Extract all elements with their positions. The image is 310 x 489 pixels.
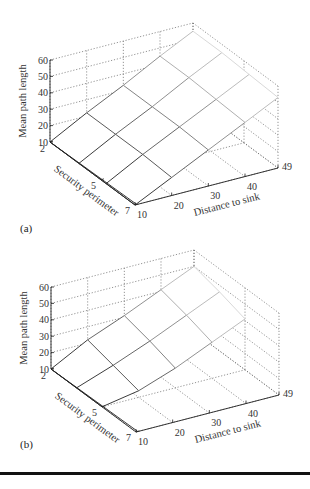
distance-tick-label: 30 xyxy=(210,190,220,201)
z-tick-label: 20 xyxy=(39,347,49,358)
distance-tick-label: 20 xyxy=(175,427,185,438)
z-tick-label: 40 xyxy=(38,87,48,98)
surface-plot-b: 1020304050602571020304049Mean path lengt… xyxy=(0,227,310,467)
distance-axis-title: Distance to sink xyxy=(193,417,262,445)
z-tick-label: 50 xyxy=(39,298,49,309)
security-tick-label: 7 xyxy=(125,205,130,216)
panel-label-b: (b) xyxy=(20,438,33,450)
distance-tick-label: 49 xyxy=(283,388,293,399)
z-tick-label: 50 xyxy=(38,71,48,82)
bottom-rule xyxy=(0,472,310,475)
chart-panel-a: 1020304050602571020304049Mean path lengt… xyxy=(0,0,310,240)
distance-axis-title: Distance to sink xyxy=(192,190,261,218)
distance-tick-label: 40 xyxy=(247,181,257,192)
distance-tick-label: 49 xyxy=(282,161,292,172)
z-tick-label: 30 xyxy=(39,331,49,342)
surface-plot-a: 1020304050602571020304049Mean path lengt… xyxy=(0,0,310,240)
distance-tick-label: 20 xyxy=(174,200,184,211)
z-tick-label: 60 xyxy=(38,55,48,66)
distance-tick-label: 10 xyxy=(137,209,147,220)
distance-tick-label: 10 xyxy=(138,436,148,447)
security-tick-label: 7 xyxy=(126,432,131,443)
z-tick-label: 60 xyxy=(39,282,49,293)
security-tick-label: 2 xyxy=(41,370,46,381)
distance-tick-label: 30 xyxy=(211,417,221,428)
distance-tick-label: 40 xyxy=(248,408,258,419)
z-axis-title: Mean path length xyxy=(17,64,28,138)
chart-panel-b: 1020304050602571020304049Mean path lengt… xyxy=(0,227,310,467)
z-tick-label: 30 xyxy=(38,104,48,115)
security-tick xyxy=(136,431,139,432)
z-axis-title: Mean path length xyxy=(18,291,29,365)
z-tick-label: 40 xyxy=(39,314,49,325)
z-tick-label: 20 xyxy=(38,120,48,131)
security-tick-label: 2 xyxy=(40,143,45,154)
